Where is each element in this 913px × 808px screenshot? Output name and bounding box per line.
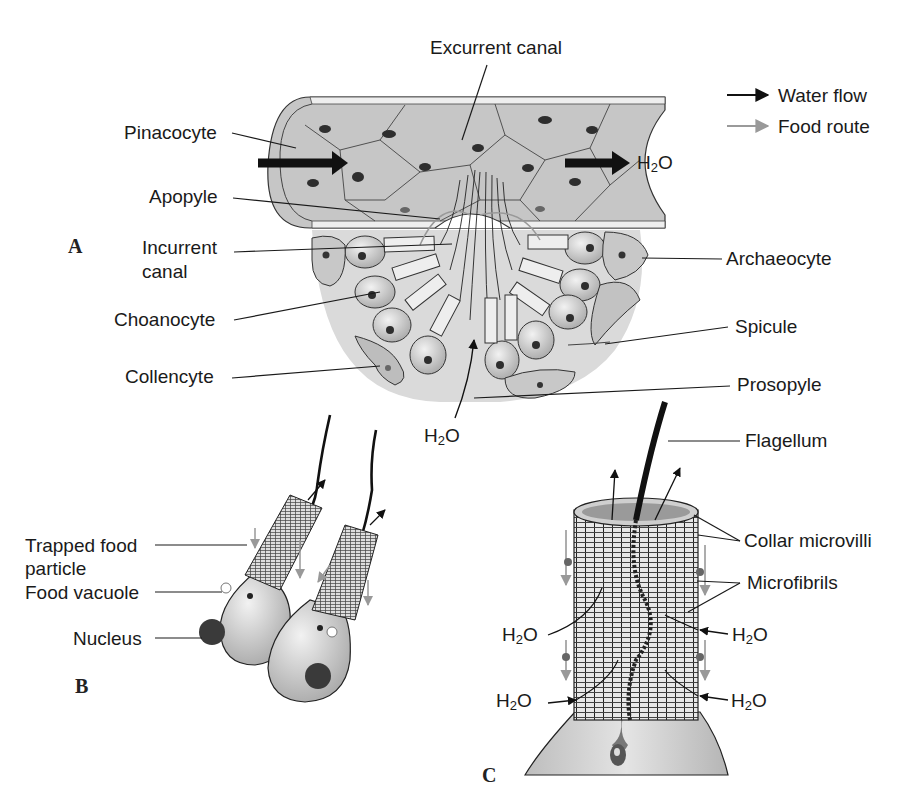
label-incurrent-canal-line1: Incurrent bbox=[142, 237, 217, 258]
panel-letter-c: C bbox=[482, 764, 496, 787]
panel-a-graphic bbox=[232, 65, 730, 418]
label-h2o-out: H2O bbox=[637, 152, 673, 173]
label-trapped-food-line1: Trapped food bbox=[25, 535, 137, 556]
label-trapped-food-line2: particle bbox=[25, 558, 86, 579]
label-h2o-c-right-lower: H2O bbox=[731, 690, 767, 711]
panel-letter-b: B bbox=[75, 675, 88, 698]
label-prosopyle: Prosopyle bbox=[737, 374, 822, 395]
label-nucleus: Nucleus bbox=[73, 628, 142, 649]
label-collar-microvilli: Collar microvilli bbox=[744, 530, 872, 551]
label-archaeocyte: Archaeocyte bbox=[726, 248, 832, 269]
label-pinacocyte: Pinacocyte bbox=[124, 122, 217, 143]
legend-graphic bbox=[727, 95, 768, 126]
label-flagellum: Flagellum bbox=[745, 430, 827, 451]
label-food-vacuole: Food vacuole bbox=[25, 582, 139, 603]
legend-food-route-label: Food route bbox=[778, 116, 870, 137]
panel-letter-a: A bbox=[68, 235, 82, 258]
label-microfibrils: Microfibrils bbox=[747, 572, 838, 593]
label-excurrent-canal: Excurrent canal bbox=[430, 37, 562, 58]
label-spicule: Spicule bbox=[735, 316, 797, 337]
panel-c-graphic bbox=[525, 402, 740, 775]
label-apopyle: Apopyle bbox=[149, 186, 218, 207]
label-h2o-c-left-lower: H2O bbox=[496, 690, 532, 711]
label-h2o-c-right-upper: H2O bbox=[732, 624, 768, 645]
panel-b-graphic bbox=[155, 415, 385, 702]
sponge-choanocyte-diagram: Water flow Food route A B C Excurrent ca… bbox=[0, 0, 913, 808]
label-h2o-c-left-upper: H2O bbox=[502, 624, 538, 645]
label-choanocyte: Choanocyte bbox=[114, 309, 215, 330]
legend-water-flow-label: Water flow bbox=[778, 85, 867, 106]
label-h2o-in: H2O bbox=[424, 425, 460, 446]
label-collencyte: Collencyte bbox=[125, 366, 214, 387]
label-incurrent-canal-line2: canal bbox=[142, 261, 187, 282]
